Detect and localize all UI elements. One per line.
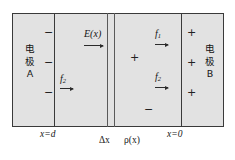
slab-right-boundary (114, 13, 115, 127)
force-f2-left-sub: 2 (63, 77, 66, 84)
axis-label-x-0: x=0 (167, 130, 182, 140)
field-label: E(x) (84, 29, 101, 39)
electrode-b-char2: 极 (202, 56, 218, 69)
electrode-a-char3: A (22, 68, 38, 81)
force-f1-label: f1 (155, 29, 161, 40)
electrode-a-char1: 电 (22, 43, 38, 56)
force-f2-right-sub: 2 (158, 75, 161, 82)
field-arrow-icon (84, 45, 103, 46)
boundary-line-x-equals-0 (181, 13, 182, 127)
force-f2-left-arrow-icon (60, 88, 73, 89)
electrode-a-minus-2: − (44, 57, 53, 68)
electrode-b-label: 电 极 B (202, 43, 218, 81)
force-f1-sub: 1 (158, 32, 161, 39)
axis-label-delta-x: Δx (99, 136, 110, 146)
electrode-a-minus-1: − (44, 27, 53, 38)
electrode-b-char1: 电 (202, 43, 218, 56)
axis-label-rho: ρ(x) (124, 136, 140, 146)
electrode-a-char2: 极 (22, 56, 38, 69)
force-f2-right-label: f2 (155, 72, 161, 83)
force-f1-arrow-icon (155, 44, 168, 45)
boundary-line-x-equals-d (54, 13, 55, 127)
bulk-plus-sign: + (130, 52, 139, 63)
electrode-b-plus-3: + (187, 87, 196, 98)
physics-figure: 电 极 A − − − f2 E(x) + − f1 f2 + + + 电 极 … (0, 0, 235, 160)
force-f2-left-label: f2 (60, 74, 66, 85)
electrode-b-plus-2: + (187, 57, 196, 68)
electrode-a-label: 电 极 A (22, 43, 38, 81)
bulk-minus-sign: − (144, 104, 153, 115)
electrode-b-plus-1: + (187, 27, 196, 38)
electrode-b-char3: B (202, 68, 218, 81)
force-f2-right-arrow-icon (155, 87, 168, 88)
slab-left-boundary (107, 13, 108, 127)
axis-label-x-d: x=d (40, 130, 55, 140)
electrode-a-minus-3: − (44, 87, 53, 98)
